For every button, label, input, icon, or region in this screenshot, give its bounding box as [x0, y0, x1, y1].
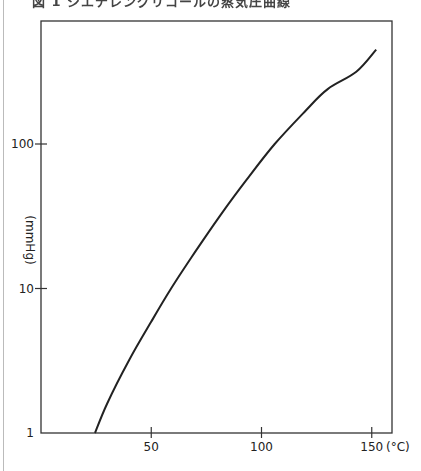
- vapor-pressure-curve: [95, 50, 376, 433]
- y-tick-label: 1: [26, 426, 34, 440]
- x-axis-label: (°C): [386, 440, 410, 454]
- y-tick-label: 10: [19, 282, 34, 296]
- x-tick-label: 50: [144, 440, 159, 454]
- x-axis-ticks: 50100150: [144, 427, 384, 454]
- x-tick-label: 100: [250, 440, 273, 454]
- chart-plot: 50100150 110100 (mmHg) (°C): [0, 0, 421, 471]
- y-axis-label: (mmHg): [23, 215, 37, 264]
- y-tick-label: 100: [11, 137, 34, 151]
- x-tick-label: 150: [360, 440, 383, 454]
